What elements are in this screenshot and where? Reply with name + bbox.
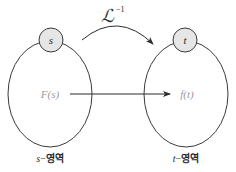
function-label-f-t: f(t) [180, 88, 194, 101]
s-node-label: s [49, 34, 53, 46]
inverse-transform-arrow [82, 26, 153, 44]
t-domain-caption: t−영역 [173, 152, 199, 164]
transform-symbol: ℒ [101, 6, 115, 26]
s-domain-caption: s−영역 [36, 152, 64, 164]
laplace-diagram: s t ℒ −1 F(s) f(t) s−영역 t−영역 [0, 0, 236, 172]
transform-superscript: −1 [116, 5, 125, 14]
function-label-F-s: F(s) [40, 88, 60, 101]
